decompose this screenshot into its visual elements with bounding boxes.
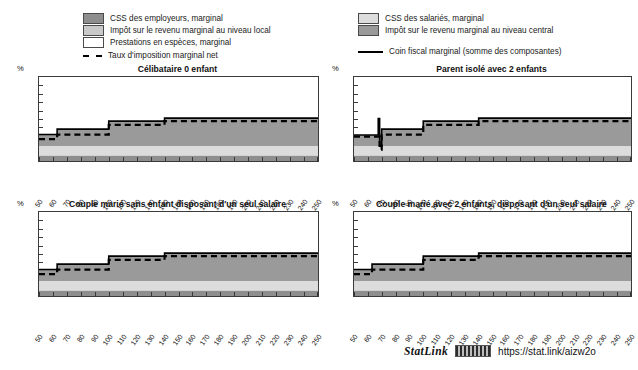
x-tick-mark bbox=[465, 157, 466, 161]
series-layer bbox=[39, 212, 318, 296]
area-band bbox=[39, 118, 318, 146]
x-tick-mark bbox=[506, 157, 507, 161]
series-layer bbox=[354, 77, 631, 161]
x-tick-label: 210 bbox=[254, 333, 266, 347]
legend-label: CSS des salariés, marginal bbox=[385, 13, 484, 24]
chart-panel-parent-isole-2-enfants: Parent isolé avec 2 enfants%010203040506… bbox=[329, 64, 632, 194]
x-tick-label: 60 bbox=[362, 333, 372, 343]
legend-item-css-employeurs: CSS des employeurs, marginal bbox=[83, 13, 271, 24]
area-band bbox=[39, 253, 318, 281]
x-tick-mark bbox=[304, 157, 305, 161]
legend-item-prestations: Prestations en espèces, marginal bbox=[83, 37, 271, 48]
barcode-icon bbox=[455, 345, 491, 357]
legend-spacer bbox=[358, 37, 561, 45]
solid-line-swatch-icon bbox=[358, 51, 383, 53]
x-tick-mark bbox=[617, 157, 618, 161]
x-tick-label: 170 bbox=[199, 333, 211, 347]
legend-label: CSS des employeurs, marginal bbox=[110, 13, 223, 24]
y-axis-unit-label: % bbox=[17, 64, 24, 73]
x-tick-mark bbox=[423, 157, 424, 161]
x-tick-mark bbox=[548, 292, 549, 296]
x-tick-label: 70 bbox=[376, 333, 386, 343]
x-tick-mark bbox=[520, 292, 521, 296]
x-tick-mark bbox=[589, 157, 590, 161]
x-tick-mark bbox=[53, 292, 54, 296]
x-tick-mark bbox=[165, 157, 166, 161]
x-tick-mark bbox=[81, 292, 82, 296]
x-tick-mark bbox=[603, 292, 604, 296]
x-tick-mark bbox=[123, 157, 124, 161]
x-tick-mark bbox=[493, 157, 494, 161]
legend-label: Taux d'imposition marginal net bbox=[108, 50, 218, 61]
statlink-url[interactable]: https://stat.link/aizw2o bbox=[498, 346, 596, 357]
series-layer bbox=[354, 212, 631, 296]
x-tick-label: 100 bbox=[101, 333, 113, 347]
x-tick-mark bbox=[451, 292, 452, 296]
x-tick-mark bbox=[534, 292, 535, 296]
x-tick-mark bbox=[630, 157, 631, 161]
x-tick-mark bbox=[123, 292, 124, 296]
light-gray-swatch-icon bbox=[83, 25, 104, 36]
area-band bbox=[39, 146, 318, 156]
legend-label: Prestations en espèces, marginal bbox=[110, 37, 231, 48]
x-tick-mark bbox=[290, 157, 291, 161]
x-tick-mark bbox=[192, 157, 193, 161]
x-tick-mark bbox=[179, 292, 180, 296]
x-tick-mark bbox=[67, 157, 68, 161]
x-tick-label: 220 bbox=[268, 333, 280, 347]
plot-area: 0102030405060708090100 bbox=[38, 211, 319, 297]
area-band bbox=[354, 281, 631, 291]
x-tick-label: 130 bbox=[143, 333, 155, 347]
cropped-title-strip bbox=[0, 0, 638, 12]
x-tick-mark bbox=[589, 292, 590, 296]
plot-area: 0102030405060708090100 bbox=[38, 76, 319, 162]
x-tick-mark bbox=[317, 292, 318, 296]
y-axis-unit-label: % bbox=[17, 199, 24, 208]
x-tick-mark bbox=[137, 292, 138, 296]
legend-label: Coin fiscal marginal (somme des composan… bbox=[389, 46, 561, 57]
x-tick-mark bbox=[234, 292, 235, 296]
legend-item-css-salaries: CSS des salariés, marginal bbox=[358, 13, 561, 24]
x-tick-label: 240 bbox=[296, 333, 308, 347]
panel-title: Célibataire 0 enfant bbox=[38, 64, 317, 74]
x-tick-mark bbox=[248, 292, 249, 296]
statlink-word: StatLink bbox=[404, 345, 448, 357]
x-tick-mark bbox=[81, 157, 82, 161]
x-tick-label: 50 bbox=[34, 333, 44, 343]
figure-sheet: CSS des employeurs, marginal Impôt sur l… bbox=[0, 0, 638, 370]
legend-item-impot-central: Impôt sur le revenu marginal au niveau c… bbox=[358, 25, 561, 36]
x-tick-mark bbox=[262, 292, 263, 296]
x-tick-mark bbox=[562, 157, 563, 161]
x-tick-mark bbox=[493, 292, 494, 296]
x-tick-mark bbox=[317, 157, 318, 161]
x-tick-mark bbox=[39, 292, 40, 296]
x-tick-mark bbox=[276, 157, 277, 161]
x-tick-label: 240 bbox=[609, 333, 621, 347]
dark-gray-swatch-icon bbox=[83, 13, 104, 24]
area-band bbox=[354, 253, 631, 281]
x-tick-mark bbox=[290, 292, 291, 296]
area-band bbox=[354, 146, 631, 156]
x-tick-mark bbox=[396, 292, 397, 296]
x-tick-mark bbox=[354, 157, 355, 161]
x-tick-mark bbox=[603, 157, 604, 161]
x-tick-mark bbox=[382, 292, 383, 296]
x-tick-mark bbox=[220, 157, 221, 161]
x-tick-mark bbox=[465, 292, 466, 296]
x-tick-mark bbox=[206, 157, 207, 161]
x-tick-label: 250 bbox=[623, 333, 635, 347]
x-tick-mark bbox=[151, 292, 152, 296]
x-tick-mark bbox=[67, 292, 68, 296]
plot-area: 0102030405060708090100 bbox=[353, 76, 632, 162]
x-tick-mark bbox=[192, 292, 193, 296]
panel-title: Couple marié avec 2 enfants, disposant d… bbox=[353, 199, 630, 209]
panel-title: Couple marié sans enfant disposant d'un … bbox=[38, 199, 317, 209]
x-tick-mark bbox=[409, 292, 410, 296]
x-tick-mark bbox=[179, 157, 180, 161]
x-tick-label: 90 bbox=[89, 333, 99, 343]
x-tick-mark bbox=[576, 157, 577, 161]
area-band bbox=[354, 118, 631, 146]
y-axis-unit-label: % bbox=[332, 199, 339, 208]
x-tick-mark bbox=[165, 292, 166, 296]
x-tick-label: 80 bbox=[390, 333, 400, 343]
